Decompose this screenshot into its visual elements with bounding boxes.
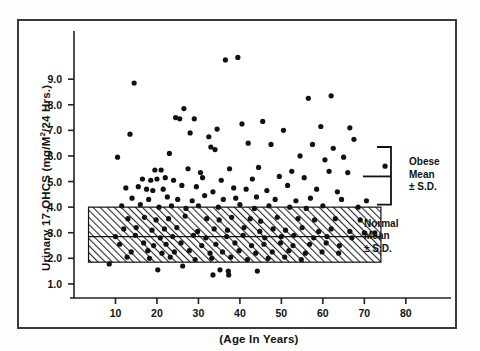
x-tick-label: 80 — [394, 307, 418, 319]
annotation-line: Mean — [409, 169, 440, 182]
y-tick-label: 1.0 — [32, 278, 62, 290]
y-tick-label: 3.0 — [32, 227, 62, 239]
annotation-line: Mean — [364, 230, 398, 243]
y-tick-label: 2.0 — [32, 252, 62, 264]
x-axis-title: (Age In Years) — [139, 333, 379, 345]
x-tick-label: 70 — [352, 307, 376, 319]
y-tick-label: 8.0 — [32, 99, 62, 111]
x-tick-label: 30 — [186, 307, 210, 319]
annotation-line: ± S.D. — [409, 181, 440, 194]
obese-bracket — [363, 147, 391, 205]
x-tick-label: 50 — [269, 307, 293, 319]
x-tick-label: 10 — [103, 307, 127, 319]
x-tick-label: 40 — [228, 307, 252, 319]
x-tick-label: 60 — [311, 307, 335, 319]
normal-annotation: NormalMean± S.D. — [364, 218, 398, 256]
annotation-line: Normal — [364, 218, 398, 231]
y-tick-label: 5.0 — [32, 176, 62, 188]
obese-annotation: ObeseMean± S.D. — [409, 156, 440, 194]
y-tick-label: 9.0 — [32, 73, 62, 85]
y-tick-label: 6.0 — [32, 150, 62, 162]
y-tick-label: 7.0 — [32, 124, 62, 136]
x-tick-label: 20 — [145, 307, 169, 319]
figure-root: Urinary 17-OHCS (mg/M2/24 Hrs.) (Age In … — [0, 0, 480, 351]
annotation-line: ± S.D. — [364, 243, 398, 256]
y-tick-label: 4.0 — [32, 201, 62, 213]
annotation-line: Obese — [409, 156, 440, 169]
scatter-plot-canvas — [19, 21, 455, 327]
chart-outer-frame: Urinary 17-OHCS (mg/M2/24 Hrs.) (Age In … — [17, 19, 457, 329]
